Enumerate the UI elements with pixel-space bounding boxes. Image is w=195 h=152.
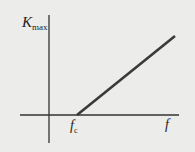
x-axis-label: f xyxy=(165,117,169,133)
kmax-line xyxy=(77,36,175,115)
y-axis-label: Kmax xyxy=(22,14,48,32)
threshold-frequency-label: fc xyxy=(70,118,77,135)
